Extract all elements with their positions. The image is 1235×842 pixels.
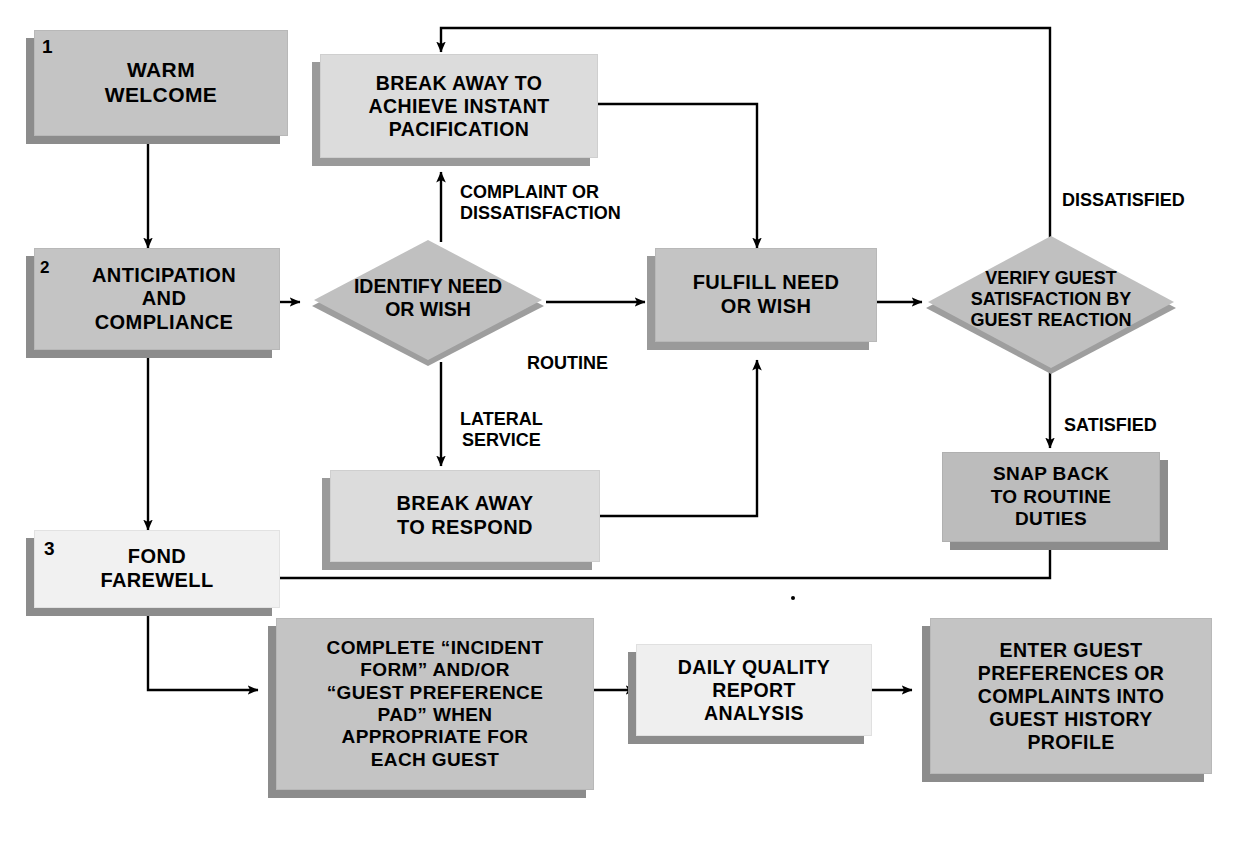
node-identify-need-label: IDENTIFY NEED OR WISH — [306, 275, 550, 321]
node-fond-farewell-number: 3 — [44, 538, 55, 560]
node-verify-guest[interactable]: VERIFY GUEST SATISFACTION BY GUEST REACT… — [920, 232, 1182, 374]
node-daily-quality-label: DAILY QUALITY REPORT ANALYSIS — [678, 656, 830, 725]
node-warm-welcome-number: 1 — [42, 36, 53, 58]
stray-dot — [791, 596, 795, 600]
node-anticipation-compliance[interactable]: ANTICIPATION AND COMPLIANCE — [34, 248, 280, 350]
node-break-away-respond[interactable]: BREAK AWAY TO RESPOND — [330, 470, 600, 562]
node-anticipation-compliance-label: ANTICIPATION AND COMPLIANCE — [92, 264, 236, 335]
node-warm-welcome-label: WARM WELCOME — [105, 58, 218, 108]
node-fulfill-need[interactable]: FULFILL NEED OR WISH — [655, 248, 877, 342]
node-snap-back[interactable]: SNAP BACK TO ROUTINE DUTIES — [942, 452, 1160, 542]
edge-label-routine: ROUTINE — [527, 353, 608, 374]
node-break-away-respond-label: BREAK AWAY TO RESPOND — [397, 492, 534, 539]
node-warm-welcome[interactable]: WARM WELCOME — [34, 30, 288, 136]
node-anticipation-compliance-number: 2 — [40, 258, 49, 278]
edge-label-lateral: LATERAL SERVICE — [460, 409, 543, 450]
node-enter-guest-label: ENTER GUEST PREFERENCES OR COMPLAINTS IN… — [978, 639, 1164, 754]
node-fond-farewell[interactable]: FOND FAREWELL — [34, 530, 280, 608]
node-enter-guest[interactable]: ENTER GUEST PREFERENCES OR COMPLAINTS IN… — [930, 618, 1212, 774]
edge-label-complaint: COMPLAINT OR DISSATISFACTION — [460, 182, 621, 223]
node-daily-quality[interactable]: DAILY QUALITY REPORT ANALYSIS — [636, 644, 872, 736]
node-break-away-pacification[interactable]: BREAK AWAY TO ACHIEVE INSTANT PACIFICATI… — [320, 54, 598, 158]
flowchart-canvas: WARM WELCOME 1 BREAK AWAY TO ACHIEVE INS… — [0, 0, 1235, 842]
node-fond-farewell-label: FOND FAREWELL — [100, 545, 213, 592]
node-fulfill-need-label: FULFILL NEED OR WISH — [693, 271, 840, 318]
node-verify-guest-label: VERIFY GUEST SATISFACTION BY GUEST REACT… — [920, 268, 1182, 332]
node-complete-form-label: COMPLETE “INCIDENT FORM” AND/OR “GUEST P… — [327, 637, 544, 771]
node-break-away-pacification-label: BREAK AWAY TO ACHIEVE INSTANT PACIFICATI… — [369, 72, 550, 141]
edge-label-satisfied: SATISFIED — [1064, 415, 1157, 436]
edge-label-dissatisfied: DISSATISFIED — [1062, 190, 1185, 211]
node-snap-back-label: SNAP BACK TO ROUTINE DUTIES — [991, 463, 1112, 530]
node-complete-form[interactable]: COMPLETE “INCIDENT FORM” AND/OR “GUEST P… — [276, 618, 594, 790]
node-identify-need[interactable]: IDENTIFY NEED OR WISH — [306, 238, 550, 366]
